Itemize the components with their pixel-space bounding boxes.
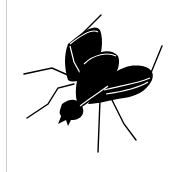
fly-icon: [0, 0, 174, 172]
